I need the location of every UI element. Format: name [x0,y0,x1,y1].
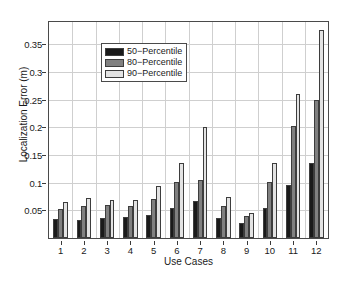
bar [249,213,254,238]
y-axis-tick-label: 0.3 [29,66,42,77]
y-axis-tick-label: 0.2 [29,122,42,133]
legend-item: 80−Percentile [105,57,182,68]
x-axis-tick-label: 4 [128,245,133,256]
bar [86,198,91,238]
y-axis-tick-mark [42,44,46,45]
bar [226,197,231,238]
legend-swatch [105,70,124,78]
y-axis-tick-mark [42,155,46,156]
x-axis-tick-label: 2 [81,245,86,256]
bar-group [189,22,212,238]
y-axis-tick-label: 0.15 [24,149,42,160]
y-axis-tick-label: 0.35 [24,39,42,50]
y-axis-tick-mark [42,100,46,101]
x-axis-tick-label: 10 [265,245,276,256]
bar [272,163,277,238]
bar [110,200,115,238]
x-axis-tick-label: 5 [151,245,156,256]
bar-group [235,22,258,238]
legend-item-label: 50−Percentile [127,46,182,57]
x-axis-tick-labels: 123456789101112 [48,241,329,255]
bar [203,127,208,238]
x-axis-tick-label: 1 [58,245,63,256]
plot-area: 50−Percentile80−Percentile90−Percentile [48,21,329,239]
legend-item: 50−Percentile [105,46,182,57]
bar [179,163,184,238]
x-axis-tick-label: 7 [197,245,202,256]
bar-group [305,22,328,238]
y-axis-tick-label: 0.05 [24,205,42,216]
y-axis-tick-labels: 0.050.10.150.20.250.30.35 [0,21,46,239]
legend-item-label: 80−Percentile [127,57,182,68]
y-axis-tick-label: 0.1 [29,177,42,188]
bar [63,202,68,238]
x-axis-tick-label: 9 [244,245,249,256]
y-axis-tick-mark [42,127,46,128]
bar [296,94,301,238]
bar [133,200,138,238]
x-axis-tick-label: 12 [311,245,322,256]
y-axis-tick-label: 0.25 [24,94,42,105]
bar-chart-figure: Localization Error (m) 0.050.10.150.20.2… [0,0,346,286]
legend-swatch [105,48,124,56]
y-axis-tick-mark [42,72,46,73]
y-axis-tick-mark [42,210,46,211]
legend-item-label: 90−Percentile [127,68,182,79]
legend-swatch [105,59,124,67]
bar-group [258,22,281,238]
bar [156,186,161,238]
bar-group [212,22,235,238]
bar-group [282,22,305,238]
legend: 50−Percentile80−Percentile90−Percentile [101,43,187,82]
x-axis-tick-label: 8 [221,245,226,256]
x-axis-title: Use Cases [48,256,329,267]
bar [319,30,324,238]
x-axis-tick-label: 3 [104,245,109,256]
bar-group [49,22,72,238]
bar-group [72,22,95,238]
legend-item: 90−Percentile [105,68,182,79]
x-axis-tick-label: 11 [288,245,298,256]
y-axis-tick-mark [42,183,46,184]
x-axis-tick-label: 6 [174,245,179,256]
